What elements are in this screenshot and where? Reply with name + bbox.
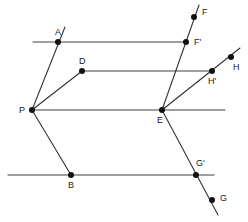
point-label-fp: F' — [194, 37, 201, 47]
geometry-diagram: ABDEFF'GG'HH'P — [0, 0, 248, 222]
point-label-gp: G' — [196, 158, 205, 168]
point-label-p: P — [19, 105, 25, 115]
point-marker-h — [228, 54, 234, 60]
point-marker-a — [55, 39, 61, 45]
point-marker-f — [191, 14, 197, 20]
point-label-d: D — [79, 56, 86, 66]
point-label-f: F — [202, 7, 208, 17]
point-marker-gp — [193, 172, 199, 178]
point-marker-g — [209, 197, 215, 203]
point-label-h: H — [233, 62, 240, 72]
point-marker-fp — [183, 39, 189, 45]
point-label-hp: H' — [208, 76, 216, 86]
point-label-e: E — [157, 115, 163, 125]
point-label-a: A — [55, 27, 61, 37]
point-marker-p — [29, 107, 35, 113]
point-marker-d — [79, 68, 85, 74]
point-marker-e — [159, 107, 165, 113]
point-marker-hp — [209, 68, 215, 74]
diagram-background — [0, 0, 248, 222]
point-marker-b — [68, 172, 74, 178]
point-label-g: G — [220, 193, 227, 203]
point-label-b: B — [68, 180, 74, 190]
